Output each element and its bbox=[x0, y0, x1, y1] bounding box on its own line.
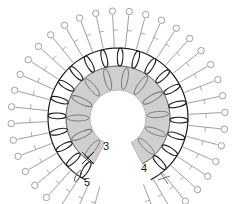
outer-stitch bbox=[67, 29, 83, 57]
picot bbox=[8, 120, 14, 126]
outer-stitch bbox=[163, 173, 183, 198]
outer-stitch bbox=[97, 17, 104, 48]
cluster-stitch bbox=[117, 48, 123, 66]
outer-stitch bbox=[125, 16, 128, 48]
cluster-stitch bbox=[154, 68, 171, 84]
outer-stitch bbox=[178, 157, 205, 174]
picot bbox=[213, 158, 219, 164]
stitch-bar bbox=[170, 186, 174, 189]
picot bbox=[198, 47, 204, 53]
picot bbox=[17, 71, 23, 77]
picot bbox=[221, 126, 227, 132]
stitch-bar bbox=[180, 177, 183, 180]
picot bbox=[35, 43, 41, 49]
picot bbox=[186, 35, 192, 41]
crochet-chart-svg bbox=[0, 0, 236, 204]
picot bbox=[207, 61, 213, 67]
outer-stitch bbox=[147, 24, 160, 53]
outer-stitch bbox=[22, 143, 52, 154]
cluster-stitch bbox=[65, 151, 82, 167]
outer-stitch bbox=[166, 41, 187, 65]
outer-stitch bbox=[81, 22, 92, 52]
stitch-bar bbox=[91, 202, 95, 203]
stitch-bar bbox=[177, 53, 180, 56]
cluster-stitch bbox=[83, 55, 96, 74]
picot bbox=[25, 57, 31, 63]
cluster-stitch bbox=[161, 143, 179, 157]
outer-stitch bbox=[189, 125, 221, 128]
stitch-bar bbox=[141, 33, 145, 34]
cluster-stitch bbox=[57, 79, 75, 93]
stitch-bar bbox=[33, 91, 34, 95]
stitch-bar bbox=[38, 78, 40, 82]
stitch-bar bbox=[154, 38, 158, 40]
stitch-bar bbox=[204, 100, 205, 105]
row-label-3: 3 bbox=[103, 141, 109, 152]
stitch-bar bbox=[127, 30, 132, 31]
picot bbox=[43, 194, 49, 200]
outer-stitch bbox=[16, 107, 48, 110]
picot bbox=[109, 8, 115, 14]
picot bbox=[182, 198, 188, 204]
picot bbox=[222, 109, 228, 115]
outer-stitch bbox=[49, 171, 70, 195]
cluster-stitch bbox=[168, 100, 187, 110]
outer-stitch bbox=[189, 113, 221, 115]
stitch-bar bbox=[86, 34, 90, 36]
outer-stitch bbox=[32, 62, 59, 79]
stitch-bar bbox=[205, 127, 206, 132]
cluster-stitch bbox=[170, 117, 188, 123]
cluster-stitch bbox=[143, 57, 157, 75]
outer-stitch bbox=[15, 122, 47, 124]
stitch-bar bbox=[47, 170, 50, 174]
stitch-bar bbox=[53, 56, 56, 59]
outer-stitch bbox=[187, 97, 218, 104]
outer-stitch bbox=[173, 53, 198, 73]
picot bbox=[15, 153, 21, 159]
stitch-bar bbox=[158, 194, 162, 196]
picot bbox=[219, 93, 225, 99]
crochet-diagram: 3 4 5 bbox=[0, 0, 236, 204]
picot bbox=[8, 104, 14, 110]
outer-stitch bbox=[171, 166, 195, 187]
outer-stitch bbox=[38, 163, 63, 183]
stitch-bar bbox=[200, 86, 202, 90]
cluster-stitch bbox=[49, 127, 68, 137]
picot bbox=[22, 168, 28, 174]
stitch-bar bbox=[31, 132, 32, 137]
outer-stitch bbox=[17, 133, 48, 140]
cluster-stitch bbox=[68, 65, 84, 82]
picot bbox=[173, 25, 179, 31]
outer-stitch bbox=[24, 76, 53, 89]
picot bbox=[11, 87, 17, 93]
picot bbox=[10, 137, 16, 143]
stitch-bar bbox=[74, 40, 78, 42]
outer-stitch bbox=[157, 32, 174, 59]
stitch-bar bbox=[194, 74, 196, 78]
cluster-stitch bbox=[50, 95, 69, 106]
stitch-bar bbox=[166, 44, 170, 47]
outer-stitch bbox=[184, 81, 214, 92]
cluster-stitch bbox=[151, 154, 167, 171]
stitch-bar bbox=[189, 166, 192, 170]
picot bbox=[158, 17, 164, 23]
stitch-bar bbox=[78, 196, 82, 198]
picot bbox=[93, 10, 99, 16]
outer-stitch bbox=[113, 15, 115, 47]
stitch-bar bbox=[63, 47, 67, 50]
stitch-bar bbox=[186, 63, 189, 67]
stitch-bar bbox=[145, 200, 149, 202]
picot bbox=[61, 22, 67, 28]
cluster-stitch bbox=[163, 83, 182, 96]
stitch-bar bbox=[56, 180, 59, 183]
outer-stitch bbox=[29, 154, 57, 170]
outer-stitch bbox=[91, 187, 99, 204]
picot bbox=[194, 186, 200, 192]
cluster-stitch bbox=[131, 50, 142, 69]
stitch-bar bbox=[196, 154, 198, 158]
picot bbox=[76, 15, 82, 21]
cluster-stitch bbox=[55, 140, 74, 153]
stitch-bar bbox=[66, 189, 70, 192]
stitch-bar bbox=[34, 145, 36, 149]
picot bbox=[32, 182, 38, 188]
